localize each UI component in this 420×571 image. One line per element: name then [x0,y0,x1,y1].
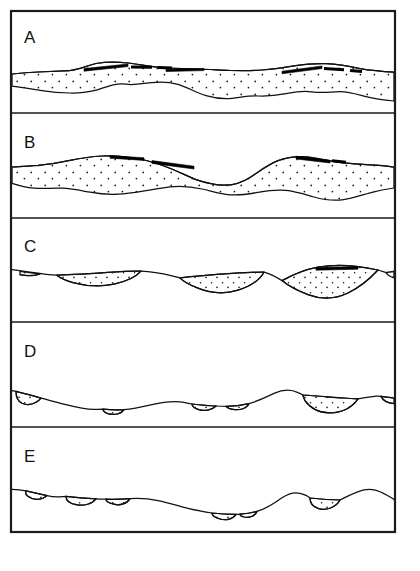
panel-a-dash-4 [350,71,362,72]
panel-label-b: B [24,133,36,152]
panel-a-dash-3 [324,69,344,70]
panel-label-e: E [24,447,36,466]
cross-section-figure: A B C D E [0,0,420,571]
panel-label-c: C [24,237,37,256]
figure-container: A B C D E [0,0,420,571]
panel-label-d: D [24,342,37,361]
panel-label-a: A [24,28,36,47]
panel-b-dash-1 [332,161,346,162]
